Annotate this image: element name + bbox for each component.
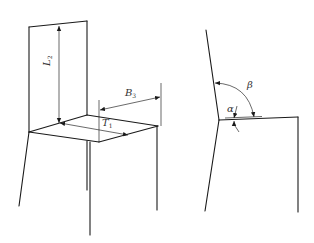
diagram-drawing: [0, 0, 314, 243]
chair-dimension-diagram: L2 B3 T1 β α: [0, 0, 314, 243]
seat: [29, 115, 158, 142]
alpha-arrow-top: [234, 106, 237, 118]
l2-subscript: 2: [46, 56, 53, 60]
seat-depth-dimension: [60, 123, 128, 135]
label-t1: T1: [102, 118, 113, 129]
profile-backrest: [206, 30, 219, 120]
alpha-symbol: α: [227, 103, 234, 114]
alpha-arrow-bottom: [234, 121, 239, 132]
chair-perspective-view: [19, 21, 161, 235]
chair-side-profile-view: [205, 30, 298, 212]
t1-symbol: T: [102, 117, 109, 128]
label-alpha: α: [227, 104, 234, 114]
beta-symbol: β: [247, 79, 253, 90]
label-l2: L2: [42, 56, 53, 66]
label-beta: β: [247, 80, 253, 90]
t1-subscript: 1: [109, 122, 113, 129]
legs: [19, 126, 157, 235]
l2-symbol: L: [41, 59, 52, 66]
b3-subscript: 3: [132, 92, 136, 99]
label-b3: B3: [125, 88, 136, 99]
profile-rear-leg: [205, 120, 219, 211]
backrest: [29, 21, 87, 132]
